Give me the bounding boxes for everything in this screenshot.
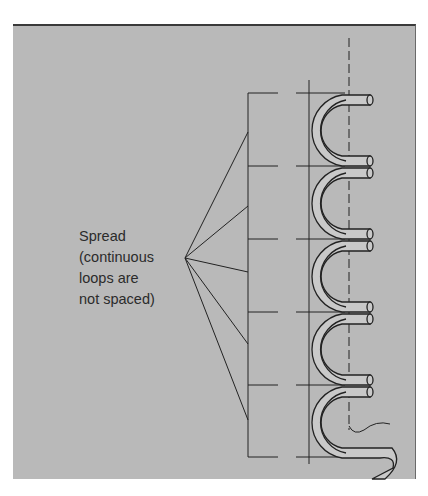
loop-1 [312, 95, 373, 166]
label-line-4: not spaced) [79, 289, 155, 310]
loop-5-tail [312, 387, 397, 479]
loop-2 [312, 168, 373, 239]
label-line-3: loops are [79, 268, 155, 289]
loop-4 [312, 314, 373, 385]
loop-3 [312, 241, 373, 312]
loop-spread-diagram [0, 0, 428, 496]
loops [312, 95, 397, 479]
label-line-2: (continuous [79, 247, 155, 268]
label-line-1: Spread [79, 226, 155, 247]
spread-label: Spread(continuousloops arenot spaced) [79, 226, 155, 310]
fan-lines [185, 132, 248, 420]
